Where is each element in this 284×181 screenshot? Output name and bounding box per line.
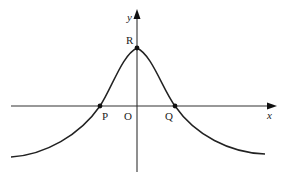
point-p: [98, 104, 103, 109]
bell-curve: [11, 48, 265, 157]
origin-label: O: [124, 110, 132, 122]
point-q-label: Q: [165, 110, 173, 122]
y-axis-arrow-icon: [134, 9, 141, 19]
y-axis-label: y: [126, 11, 132, 23]
point-r-label: R: [126, 34, 134, 46]
point-r: [135, 46, 140, 51]
x-axis-label: x: [266, 109, 272, 121]
point-q: [173, 104, 178, 109]
function-graph: y x R P O Q: [0, 0, 284, 181]
point-p-label: P: [102, 110, 108, 122]
